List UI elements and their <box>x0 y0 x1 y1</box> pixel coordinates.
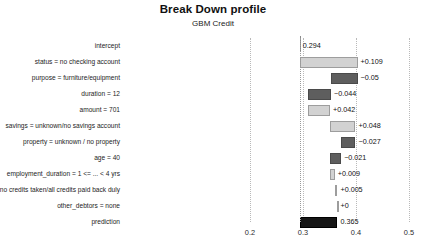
bar-positive <box>330 169 335 180</box>
row-label: amount = 701 <box>79 105 120 114</box>
bar-value-label: 0.365 <box>340 217 358 226</box>
bar-value-label: 0.294 <box>303 41 321 50</box>
bar-value-label: +0.042 <box>333 105 355 114</box>
row-label: age = 40 <box>94 153 120 162</box>
bar-positive <box>330 121 355 132</box>
chart-row: amount = 701+0.042 <box>0 102 426 118</box>
x-axis-tick-0.5: 0.5 <box>404 228 414 237</box>
plot-area: intercept0.294status = no checking accou… <box>0 0 426 246</box>
bar-positive <box>300 57 358 68</box>
bar-value-label: −0.021 <box>344 153 366 162</box>
bar-positive <box>335 185 338 196</box>
chart-row: savings = unknown/no savings account+0.0… <box>0 118 426 134</box>
chart-row: status = no checking account+0.109 <box>0 54 426 70</box>
bar-negative <box>330 153 341 164</box>
row-label: prediction <box>91 217 120 226</box>
chart-row: age = 40−0.021 <box>0 150 426 166</box>
row-label: purpose = furniture/equipment <box>32 73 120 82</box>
x-axis-tick-0.3: 0.3 <box>298 228 308 237</box>
chart-row: purpose = furniture/equipment−0.05 <box>0 70 426 86</box>
row-label: credit_history = no credits taken/all cr… <box>0 185 120 194</box>
x-axis-tick-0.4: 0.4 <box>351 228 361 237</box>
bar-positive <box>308 105 330 116</box>
bar-value-label: +0.009 <box>338 169 360 178</box>
chart-row: other_debtors = none+0 <box>0 198 426 214</box>
bar-total <box>300 217 338 228</box>
bar-value-label: +0.048 <box>358 121 380 130</box>
reference-line <box>300 38 301 222</box>
row-label: employment_duration = 1 <= ... < 4 yrs <box>7 169 120 178</box>
bar-value-label: +0 <box>340 201 348 210</box>
chart-row: intercept0.294 <box>0 38 426 54</box>
row-label: other_debtors = none <box>57 201 120 210</box>
row-label: savings = unknown/no savings account <box>5 121 120 130</box>
bar-value-label: +0.005 <box>340 185 362 194</box>
x-axis-tick-0.2: 0.2 <box>245 228 255 237</box>
bar-negative <box>331 73 358 84</box>
bar-value-label: +0.109 <box>361 57 383 66</box>
chart-row: property = unknown / no property−0.027 <box>0 134 426 150</box>
bar-negative <box>308 89 331 100</box>
row-label: intercept <box>95 41 120 50</box>
chart-row: duration = 12−0.044 <box>0 86 426 102</box>
row-label: status = no checking account <box>35 57 120 66</box>
chart-row: credit_history = no credits taken/all cr… <box>0 182 426 198</box>
bar-value-label: −0.05 <box>361 73 379 82</box>
row-label: duration = 12 <box>81 89 120 98</box>
bar-value-label: −0.044 <box>334 89 356 98</box>
bar-positive <box>337 201 339 212</box>
breakdown-profile-chart: Break Down profile GBM Credit intercept0… <box>0 0 426 246</box>
chart-row: prediction0.365 <box>0 214 426 230</box>
bar-value-label: −0.027 <box>358 137 380 146</box>
bar-negative <box>341 137 355 148</box>
row-label: property = unknown / no property <box>23 137 120 146</box>
chart-row: employment_duration = 1 <= ... < 4 yrs+0… <box>0 166 426 182</box>
